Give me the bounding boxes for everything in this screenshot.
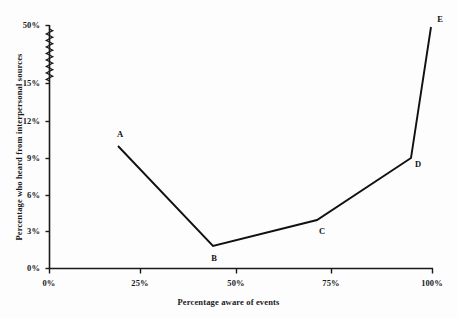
- point-label-e: E: [437, 14, 443, 24]
- x-tick-label: 75%: [322, 278, 339, 288]
- x-axis-title: Percentage aware of events: [0, 297, 457, 307]
- x-tick-label: 25%: [131, 278, 148, 288]
- y-tick-label: 15%: [8, 78, 40, 88]
- x-tick-label: 0%: [43, 278, 56, 288]
- y-tick-label: 6%: [8, 190, 40, 200]
- x-tick-label: 100%: [421, 278, 443, 288]
- point-label-d: D: [415, 159, 421, 169]
- y-tick-label: 9%: [8, 153, 40, 163]
- point-label-b: B: [211, 253, 217, 263]
- y-tick-label: 0%: [8, 263, 40, 273]
- data-series-line: [118, 27, 431, 246]
- y-axis-title: Percentage who heard from interpersonal …: [14, 32, 24, 262]
- point-label-c: C: [319, 226, 325, 236]
- point-label-a: A: [117, 129, 123, 139]
- chart-plot-area: [0, 0, 457, 318]
- y-tick-label: 3%: [8, 226, 40, 236]
- y-tick-label: 50%: [8, 20, 40, 30]
- x-tick-label: 50%: [227, 278, 244, 288]
- y-tick-label: 12%: [8, 116, 40, 126]
- axis-lines: [49, 25, 433, 269]
- chart-container: 50%15%12%9%6%3%0% 0%25%50%75%100% ABCDE …: [0, 0, 457, 318]
